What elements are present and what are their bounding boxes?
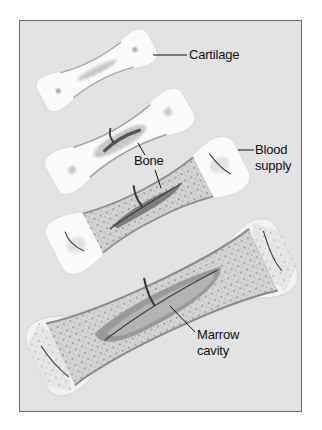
blood-supply-label-line2: supply [255, 158, 291, 173]
cartilage-label: Cartilage [189, 47, 239, 62]
bone-label: Bone [134, 153, 164, 168]
marrow-cavity-label-line2: cavity [197, 343, 229, 358]
blood-supply-label-line1: Blood [255, 142, 287, 157]
bone-stage-1 [33, 25, 161, 115]
marrow-cavity-label-line1: Marrow [197, 327, 239, 342]
bone-growth-illustration [0, 0, 322, 430]
